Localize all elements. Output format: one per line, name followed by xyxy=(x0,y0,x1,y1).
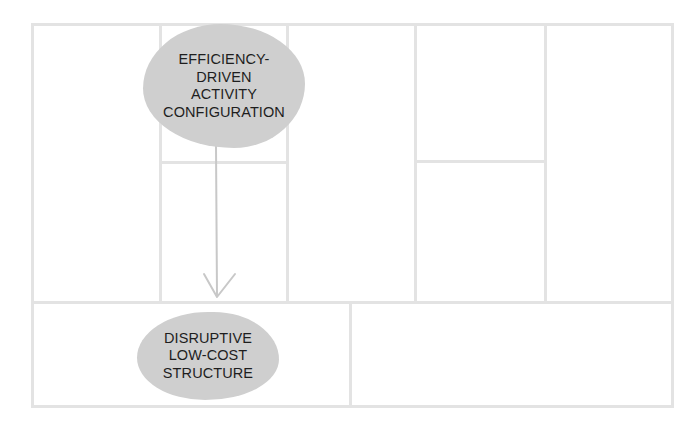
low-cost-node-label: DISRUPTIVE LOW-COST STRUCTURE xyxy=(163,330,253,383)
arrow-connector xyxy=(0,0,696,426)
efficiency-driven-activity-node: EFFICIENCY- DRIVEN ACTIVITY CONFIGURATIO… xyxy=(143,24,305,148)
disruptive-low-cost-node: DISRUPTIVE LOW-COST STRUCTURE xyxy=(137,312,279,400)
efficiency-node-label: EFFICIENCY- DRIVEN ACTIVITY CONFIGURATIO… xyxy=(163,51,285,121)
diagram-canvas: EFFICIENCY- DRIVEN ACTIVITY CONFIGURATIO… xyxy=(0,0,696,426)
